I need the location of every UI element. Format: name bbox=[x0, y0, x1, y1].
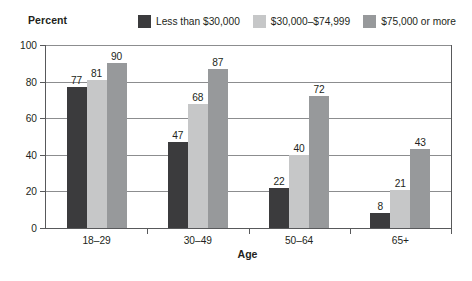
y-axis-tick bbox=[40, 228, 46, 229]
x-axis-category-label: 65+ bbox=[392, 235, 409, 246]
x-axis-category-label: 30–49 bbox=[184, 235, 212, 246]
bar-value-label: 8 bbox=[378, 201, 384, 212]
bar-rect[interactable] bbox=[188, 104, 208, 228]
bar-rect[interactable] bbox=[208, 69, 228, 228]
bar-rect[interactable] bbox=[289, 155, 309, 228]
y-axis-tick bbox=[40, 82, 46, 83]
bar-value-label: 90 bbox=[111, 51, 122, 62]
bar[interactable]: 47 bbox=[168, 45, 188, 228]
legend-swatch-icon bbox=[363, 15, 376, 28]
plot-right-spine bbox=[451, 45, 452, 228]
x-axis-tick bbox=[147, 228, 148, 234]
bar-group-bars: 82143 bbox=[370, 45, 430, 228]
y-axis-tick-label: 20 bbox=[26, 186, 37, 197]
x-axis-category-label: 50–64 bbox=[285, 235, 313, 246]
plot-area: 020406080100 77819047688722407282143 18–… bbox=[45, 45, 451, 229]
y-axis-tick-label: 80 bbox=[26, 76, 37, 87]
bar-group: 778190 bbox=[67, 45, 127, 228]
bar-value-label: 21 bbox=[395, 178, 406, 189]
bar-value-label: 47 bbox=[172, 130, 183, 141]
bar[interactable]: 81 bbox=[87, 45, 107, 228]
bar-value-label: 43 bbox=[415, 137, 426, 148]
y-axis-tick bbox=[40, 191, 46, 192]
y-axis-unit-label: Percent bbox=[28, 14, 67, 26]
legend-item-label: $75,000 or more bbox=[381, 15, 456, 28]
bar-group-bars: 476887 bbox=[168, 45, 228, 228]
bar-rect[interactable] bbox=[410, 149, 430, 228]
legend-item-less-than-30000[interactable]: Less than $30,000 bbox=[138, 14, 240, 28]
legend-item-30000-74999[interactable]: $30,000–$74,999 bbox=[253, 14, 350, 28]
bar-rect[interactable] bbox=[370, 213, 390, 228]
bar[interactable]: 68 bbox=[188, 45, 208, 228]
legend-item-label: Less than $30,000 bbox=[156, 15, 240, 28]
bar-rect[interactable] bbox=[87, 80, 107, 228]
bar-rect[interactable] bbox=[309, 96, 329, 228]
legend-item-label: $30,000–$74,999 bbox=[271, 15, 350, 28]
x-axis-category-label: 18–29 bbox=[82, 235, 110, 246]
legend-item-75000-or-more[interactable]: $75,000 or more bbox=[363, 14, 456, 28]
bar-value-label: 72 bbox=[313, 84, 324, 95]
bar[interactable]: 22 bbox=[269, 45, 289, 228]
y-axis-tick bbox=[40, 118, 46, 119]
bar-rect[interactable] bbox=[107, 63, 127, 228]
bar[interactable]: 90 bbox=[107, 45, 127, 228]
bar-group: 224072 bbox=[269, 45, 329, 228]
chart-legend: Less than $30,000 $30,000–$74,999 $75,00… bbox=[138, 14, 456, 28]
bar-rect[interactable] bbox=[168, 142, 188, 228]
bar[interactable]: 77 bbox=[67, 45, 87, 228]
bar-group: 82143 bbox=[370, 45, 430, 228]
x-axis-title: Age bbox=[45, 248, 450, 260]
bar-value-label: 81 bbox=[91, 68, 102, 79]
bar-rect[interactable] bbox=[390, 190, 410, 228]
bar-value-label: 68 bbox=[192, 92, 203, 103]
legend-swatch-icon bbox=[253, 15, 266, 28]
bar-value-label: 40 bbox=[293, 143, 304, 154]
bar-chart-figure: Percent Less than $30,000 $30,000–$74,99… bbox=[0, 0, 472, 281]
bar[interactable]: 43 bbox=[410, 45, 430, 228]
y-axis-tick bbox=[40, 45, 46, 46]
x-axis-tick bbox=[350, 228, 351, 234]
legend-swatch-icon bbox=[138, 15, 151, 28]
y-axis-tick-label: 40 bbox=[26, 149, 37, 160]
bar-value-label: 87 bbox=[212, 57, 223, 68]
x-axis-tick bbox=[451, 228, 452, 234]
bar-rect[interactable] bbox=[269, 188, 289, 228]
bar[interactable]: 87 bbox=[208, 45, 228, 228]
bar-value-label: 77 bbox=[71, 75, 82, 86]
bar-group-bars: 224072 bbox=[269, 45, 329, 228]
bar[interactable]: 8 bbox=[370, 45, 390, 228]
y-axis-tick-label: 0 bbox=[31, 223, 37, 234]
bar-group: 476887 bbox=[168, 45, 228, 228]
y-axis-tick bbox=[40, 155, 46, 156]
bar[interactable]: 21 bbox=[390, 45, 410, 228]
bar-group-bars: 778190 bbox=[67, 45, 127, 228]
y-axis-tick-label: 60 bbox=[26, 113, 37, 124]
bar[interactable]: 40 bbox=[289, 45, 309, 228]
x-axis-tick bbox=[249, 228, 250, 234]
bar[interactable]: 72 bbox=[309, 45, 329, 228]
bar-rect[interactable] bbox=[67, 87, 87, 228]
y-axis-tick-label: 100 bbox=[20, 40, 37, 51]
bar-value-label: 22 bbox=[273, 176, 284, 187]
